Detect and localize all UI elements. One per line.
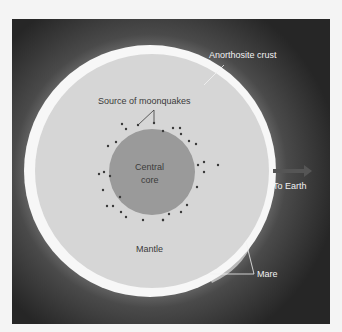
label-anorthosite-crust: Anorthosite crust: [209, 50, 277, 60]
label-central: Central: [135, 162, 164, 172]
moon-cross-section: [12, 19, 330, 324]
label-moonquakes: Source of moonquakes: [98, 96, 191, 106]
label-core: core: [141, 175, 159, 185]
diagram-panel: Anorthosite crust Source of moonquakes C…: [12, 19, 330, 324]
label-mantle: Mantle: [136, 244, 163, 254]
central-core: [109, 129, 195, 215]
label-mare: Mare: [257, 269, 278, 279]
label-to-earth: To Earth: [273, 181, 307, 191]
